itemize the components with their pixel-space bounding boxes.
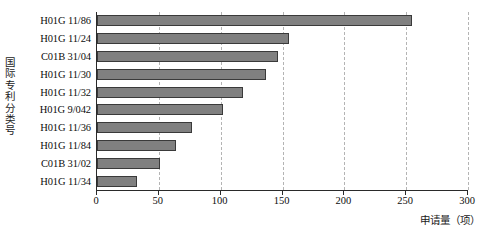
bar <box>97 140 176 151</box>
bar <box>97 51 278 62</box>
bar <box>97 104 223 115</box>
y-axis-tick-label: H01G 11/36 <box>18 119 94 137</box>
bar-row <box>97 154 468 172</box>
y-axis-tick-labels: H01G 11/86H01G 11/24C01B 31/04H01G 11/30… <box>18 12 94 190</box>
bar-row <box>97 83 468 101</box>
bar-row <box>97 172 468 190</box>
bar-row <box>97 101 468 119</box>
y-axis-tick-label: H01G 11/24 <box>18 30 94 48</box>
bar-row <box>97 119 468 137</box>
x-axis-tick-label: 150 <box>274 195 290 206</box>
x-axis-tick-label: 100 <box>212 195 228 206</box>
bar-chart: 国际专利分类号 H01G 11/86H01G 11/24C01B 31/04H0… <box>0 0 488 234</box>
y-axis-tick-label: H01G 11/30 <box>18 65 94 83</box>
bars-layer <box>97 12 468 190</box>
y-axis-title: 国际专利分类号 <box>2 57 18 137</box>
bar <box>97 176 137 187</box>
bar <box>97 33 289 44</box>
y-axis-tick-label: C01B 31/02 <box>18 154 94 172</box>
bar <box>97 69 266 80</box>
gridline <box>468 12 469 190</box>
x-axis-tick-labels: 050100150200250300 <box>96 195 467 211</box>
bar <box>97 15 412 26</box>
bar-row <box>97 48 468 66</box>
y-axis-tick-label: H01G 11/32 <box>18 83 94 101</box>
y-axis-tick-label: C01B 31/04 <box>18 48 94 66</box>
y-axis-title-char: 号 <box>2 125 18 136</box>
x-axis-tick-label: 0 <box>93 195 98 206</box>
y-axis-tick-label: H01G 9/042 <box>18 101 94 119</box>
bar-row <box>97 12 468 30</box>
bar-row <box>97 65 468 83</box>
y-axis-title-char: 利 <box>2 91 18 102</box>
plot-area <box>96 12 468 191</box>
bar <box>97 87 243 98</box>
x-axis-title: 申请量（项） <box>420 212 480 227</box>
bar-row <box>97 30 468 48</box>
y-axis-tick-label: H01G 11/34 <box>18 172 94 190</box>
y-axis-tick-label: H01G 11/86 <box>18 12 94 30</box>
bar-row <box>97 137 468 155</box>
y-axis-tick-label: H01G 11/84 <box>18 137 94 155</box>
x-axis-tick-label: 300 <box>459 195 475 206</box>
bar <box>97 158 160 169</box>
x-axis-tick-label: 250 <box>397 195 413 206</box>
bar <box>97 122 192 133</box>
x-axis-tick-label: 200 <box>335 195 351 206</box>
x-axis-tick-label: 50 <box>153 195 164 206</box>
